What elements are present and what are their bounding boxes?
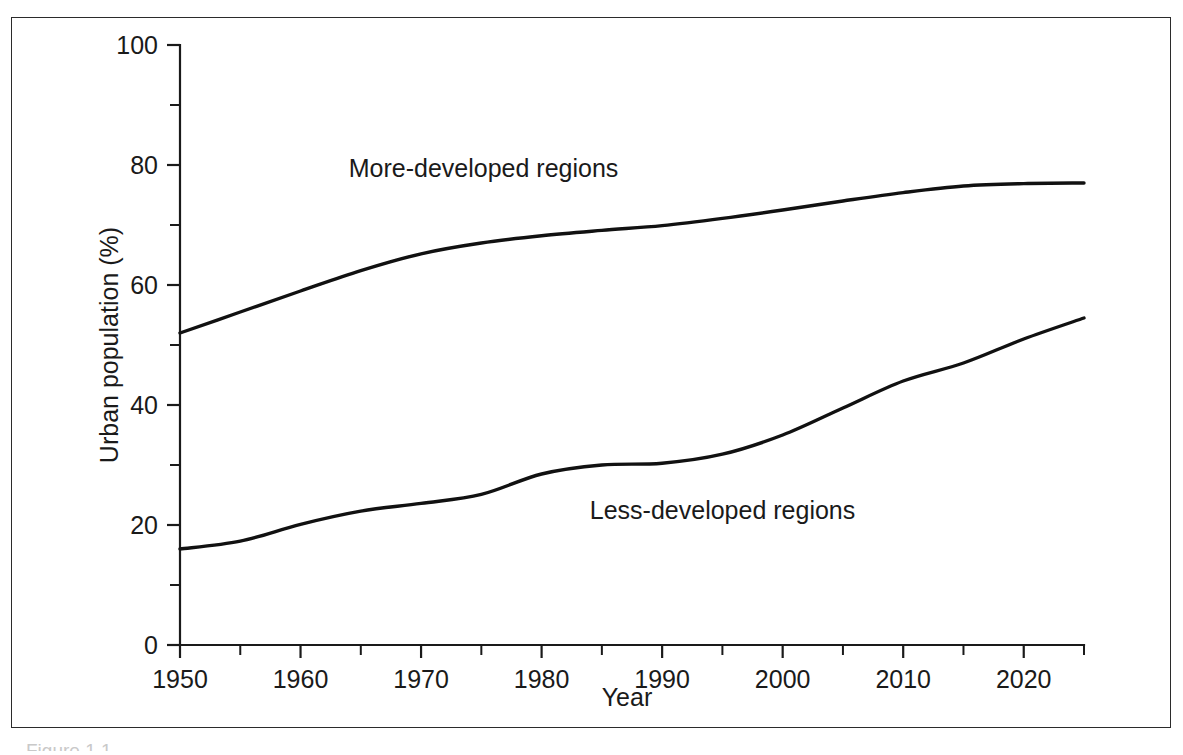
series-label: More-developed regions: [349, 154, 619, 182]
chart-ticks: [167, 45, 1084, 658]
y-axis-title: Urban population (%): [95, 227, 123, 463]
y-tick-label: 20: [130, 511, 158, 539]
y-tick-label: 40: [130, 391, 158, 419]
x-tick-label: 2000: [755, 665, 811, 693]
x-axis-title: Year: [602, 683, 653, 711]
y-tick-label: 100: [116, 31, 158, 59]
x-tick-label: 1960: [273, 665, 329, 693]
partial-caption-text: Figure 1.1: [26, 741, 446, 751]
chart-tick-labels: 0204060801001950196019701980199020002010…: [116, 31, 1051, 693]
x-tick-label: 1980: [514, 665, 570, 693]
y-tick-label: 80: [130, 151, 158, 179]
x-tick-label: 1950: [152, 665, 208, 693]
y-tick-label: 0: [144, 631, 158, 659]
chart-series-lines: [180, 183, 1084, 549]
figure-page: 0204060801001950196019701980199020002010…: [0, 0, 1183, 755]
x-tick-label: 2020: [996, 665, 1052, 693]
series-label: Less-developed regions: [590, 496, 855, 524]
line-chart: 0204060801001950196019701980199020002010…: [0, 0, 1183, 755]
x-tick-label: 1970: [393, 665, 449, 693]
chart-axes: [180, 45, 1084, 645]
series-line: [180, 183, 1084, 333]
y-tick-label: 60: [130, 271, 158, 299]
x-tick-label: 2010: [875, 665, 931, 693]
